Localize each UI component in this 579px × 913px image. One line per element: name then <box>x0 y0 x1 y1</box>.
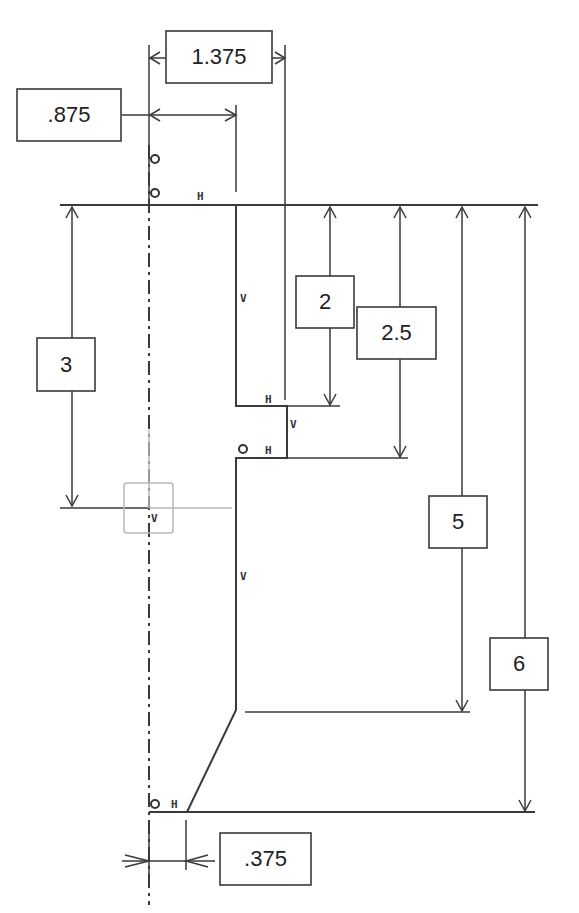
horizontal-tag: H <box>265 393 272 406</box>
dimension-1-375[interactable]: 1.375 <box>166 31 272 83</box>
vertical-tag: V <box>290 418 297 431</box>
horizontal-tag: H <box>171 798 178 811</box>
horizontal-tag: H <box>197 190 204 203</box>
dimension-2[interactable]: 2 <box>296 276 354 328</box>
coincident-icon <box>238 444 248 454</box>
coincident-icon <box>150 154 160 164</box>
dimension-2-5[interactable]: 2.5 <box>357 307 436 359</box>
vertical-tag: V <box>240 292 247 305</box>
vertical-tag: V <box>240 570 247 583</box>
horizontal-tag: H <box>265 444 272 457</box>
dimension-0-375[interactable]: .375 <box>220 833 311 885</box>
dimension-5[interactable]: 5 <box>429 496 487 548</box>
vertical-tag: V <box>151 512 158 525</box>
coincident-icon <box>150 799 160 809</box>
dimension-0-875[interactable]: .875 <box>17 89 121 141</box>
coincident-icon <box>150 188 160 198</box>
dimension-3[interactable]: 3 <box>37 338 95 391</box>
dimension-6[interactable]: 6 <box>490 638 548 690</box>
